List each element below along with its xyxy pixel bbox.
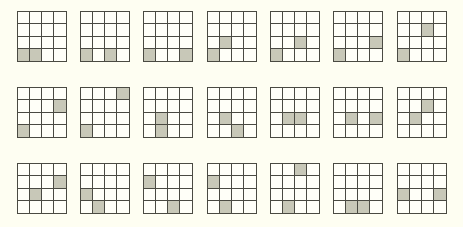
empty-cell	[105, 164, 117, 176]
empty-cell	[307, 125, 319, 137]
pattern-grid-r2-c1	[17, 87, 67, 138]
grid-pattern-figure	[0, 0, 463, 227]
empty-cell	[410, 189, 422, 201]
shaded-cell	[220, 201, 232, 213]
shaded-cell	[81, 49, 93, 61]
empty-cell	[271, 113, 283, 125]
empty-cell	[334, 176, 346, 188]
empty-cell	[180, 37, 192, 49]
pattern-grid-r3-c6	[333, 163, 383, 214]
empty-cell	[105, 24, 117, 36]
empty-cell	[244, 49, 256, 61]
empty-cell	[244, 113, 256, 125]
empty-cell	[105, 88, 117, 100]
empty-cell	[271, 125, 283, 137]
empty-cell	[370, 201, 382, 213]
empty-cell	[422, 49, 434, 61]
empty-cell	[81, 100, 93, 112]
empty-cell	[208, 37, 220, 49]
empty-cell	[156, 176, 168, 188]
shaded-cell	[398, 189, 410, 201]
empty-cell	[168, 176, 180, 188]
empty-cell	[283, 12, 295, 24]
empty-cell	[156, 100, 168, 112]
empty-cell	[398, 24, 410, 36]
empty-cell	[220, 88, 232, 100]
empty-cell	[434, 164, 446, 176]
empty-cell	[144, 24, 156, 36]
shaded-cell	[346, 201, 358, 213]
empty-cell	[117, 201, 129, 213]
empty-cell	[220, 24, 232, 36]
empty-cell	[307, 24, 319, 36]
empty-cell	[271, 37, 283, 49]
pattern-grid-r1-c7	[397, 11, 447, 62]
empty-cell	[358, 88, 370, 100]
empty-cell	[358, 189, 370, 201]
empty-cell	[30, 37, 42, 49]
empty-cell	[156, 49, 168, 61]
empty-cell	[307, 189, 319, 201]
empty-cell	[93, 100, 105, 112]
empty-cell	[358, 37, 370, 49]
empty-cell	[144, 37, 156, 49]
shaded-cell	[295, 37, 307, 49]
shaded-cell	[93, 201, 105, 213]
empty-cell	[117, 164, 129, 176]
empty-cell	[358, 113, 370, 125]
empty-cell	[370, 176, 382, 188]
empty-cell	[156, 201, 168, 213]
empty-cell	[30, 201, 42, 213]
empty-cell	[93, 37, 105, 49]
empty-cell	[54, 49, 66, 61]
empty-cell	[18, 164, 30, 176]
empty-cell	[283, 100, 295, 112]
empty-cell	[168, 164, 180, 176]
empty-cell	[334, 37, 346, 49]
shaded-cell	[18, 125, 30, 137]
empty-cell	[144, 164, 156, 176]
empty-cell	[283, 189, 295, 201]
empty-cell	[156, 164, 168, 176]
empty-cell	[232, 176, 244, 188]
empty-cell	[117, 125, 129, 137]
shaded-cell	[434, 189, 446, 201]
empty-cell	[283, 24, 295, 36]
empty-cell	[295, 201, 307, 213]
shaded-cell	[295, 113, 307, 125]
empty-cell	[271, 100, 283, 112]
empty-cell	[283, 88, 295, 100]
shaded-cell	[398, 49, 410, 61]
empty-cell	[398, 100, 410, 112]
empty-cell	[18, 189, 30, 201]
empty-cell	[283, 176, 295, 188]
empty-cell	[244, 24, 256, 36]
empty-cell	[307, 12, 319, 24]
empty-cell	[208, 24, 220, 36]
empty-cell	[410, 125, 422, 137]
empty-cell	[144, 201, 156, 213]
empty-cell	[105, 201, 117, 213]
empty-cell	[168, 88, 180, 100]
empty-cell	[370, 125, 382, 137]
empty-cell	[30, 113, 42, 125]
shaded-cell	[410, 113, 422, 125]
empty-cell	[271, 12, 283, 24]
empty-cell	[208, 113, 220, 125]
empty-cell	[410, 24, 422, 36]
empty-cell	[370, 24, 382, 36]
empty-cell	[358, 164, 370, 176]
empty-cell	[434, 176, 446, 188]
empty-cell	[93, 125, 105, 137]
empty-cell	[180, 125, 192, 137]
empty-cell	[30, 100, 42, 112]
empty-cell	[180, 88, 192, 100]
empty-cell	[295, 125, 307, 137]
empty-cell	[334, 100, 346, 112]
empty-cell	[422, 164, 434, 176]
empty-cell	[398, 164, 410, 176]
shaded-cell	[144, 176, 156, 188]
empty-cell	[220, 189, 232, 201]
empty-cell	[180, 189, 192, 201]
empty-cell	[105, 100, 117, 112]
